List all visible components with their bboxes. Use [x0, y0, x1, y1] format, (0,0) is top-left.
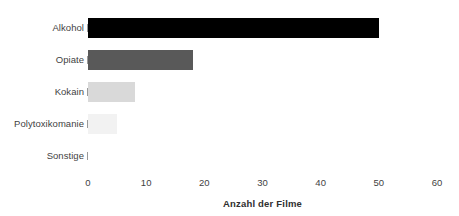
bar-row: Polytoxikomanie	[0, 108, 459, 140]
x-axis: 0102030405060	[0, 176, 459, 194]
bar-row: Sonstige	[0, 140, 459, 172]
category-label-kokain: Kokain	[0, 76, 84, 108]
axis-tick-mark	[87, 120, 88, 128]
axis-tick-mark	[87, 152, 88, 160]
x-axis-title: Anzahl der Filme	[88, 198, 437, 209]
bar-polytoxikomanie[interactable]	[88, 114, 117, 134]
bar-row: Kokain	[0, 76, 459, 108]
category-label-opiate: Opiate	[0, 44, 84, 76]
bar-track	[88, 12, 437, 44]
x-tick-label-40: 40	[301, 176, 341, 190]
bar-row: Opiate	[0, 44, 459, 76]
bar-alkohol[interactable]	[88, 18, 379, 38]
category-label-polytoxikomanie: Polytoxikomanie	[0, 108, 84, 140]
bar-track	[88, 108, 437, 140]
x-tick-label-50: 50	[359, 176, 399, 190]
x-tick-label-0: 0	[68, 176, 108, 190]
bar-chart: AlkoholOpiateKokainPolytoxikomanieSonsti…	[0, 0, 459, 216]
axis-tick-mark	[87, 56, 88, 64]
x-tick-label-20: 20	[184, 176, 224, 190]
plot-area: AlkoholOpiateKokainPolytoxikomanieSonsti…	[0, 8, 459, 168]
bar-opiate[interactable]	[88, 50, 193, 70]
axis-tick-mark	[87, 24, 88, 32]
bar-track	[88, 44, 437, 76]
x-tick-label-30: 30	[243, 176, 283, 190]
bar-track	[88, 76, 437, 108]
bar-track	[88, 140, 437, 172]
category-label-sonstige: Sonstige	[0, 140, 84, 172]
chart-title	[0, 0, 459, 8]
bar-row: Alkohol	[0, 12, 459, 44]
x-tick-label-10: 10	[126, 176, 166, 190]
x-tick-label-60: 60	[417, 176, 457, 190]
category-label-alkohol: Alkohol	[0, 12, 84, 44]
axis-tick-mark	[87, 88, 88, 96]
bar-kokain[interactable]	[88, 82, 135, 102]
